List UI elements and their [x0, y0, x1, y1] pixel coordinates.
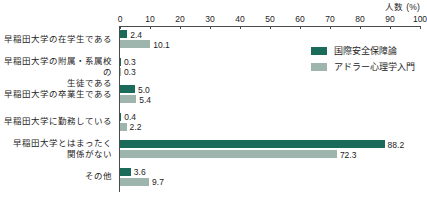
bar: [120, 58, 121, 66]
legend-swatch: [311, 63, 327, 71]
x-tick-mark: [420, 26, 421, 29]
category-label: 早稲田大学に勤務している: [0, 116, 112, 127]
x-tick-label: 50: [265, 14, 274, 24]
bar-group: 3.69.7: [120, 168, 420, 188]
category-label-line: 早稲田大学に勤務している: [0, 116, 112, 127]
x-tick-label: 30: [205, 14, 214, 24]
bar-value-label: 72.3: [340, 151, 357, 159]
bar-group: 5.05.4: [120, 85, 420, 105]
x-tick-label: 20: [175, 14, 184, 24]
x-tick-label: 60: [295, 14, 304, 24]
bar-value-label: 10.1: [153, 41, 170, 49]
x-axis-title: 人数 (%): [385, 0, 420, 12]
category-label-line: 関係がない: [0, 149, 112, 160]
legend-label: アドラー心理学入門: [334, 60, 415, 73]
category-label: 早稲田大学の在学生である: [0, 34, 112, 45]
bar-value-label: 2.2: [130, 123, 142, 131]
bar: [120, 150, 337, 158]
bar-value-label: 3.6: [134, 168, 146, 176]
bar-value-label: 0.3: [124, 58, 136, 66]
category-label: 早稲田大学の附属・系属校の生徒である: [0, 56, 112, 89]
x-tick-label: 90: [385, 14, 394, 24]
bar-value-label: 5.4: [139, 96, 151, 104]
x-tick-label: 40: [235, 14, 244, 24]
bar-value-label: 2.4: [130, 31, 142, 39]
x-tick-label: 70: [325, 14, 334, 24]
x-tick-label: 80: [355, 14, 364, 24]
category-label-line: 早稲田大学の卒業生である: [0, 89, 112, 100]
bar-group: 0.42.2: [120, 113, 420, 133]
category-label-line: 早稲田大学とはまったく: [0, 138, 112, 149]
bar: [120, 68, 121, 76]
legend-swatch: [311, 47, 327, 55]
bar: [120, 178, 149, 186]
x-tick-label: 0: [118, 14, 123, 24]
bar: [120, 140, 385, 148]
category-label-line: その他: [0, 171, 112, 182]
x-tick-label: 100: [413, 14, 427, 24]
bar-value-label: 5.0: [138, 86, 150, 94]
bar-value-label: 0.3: [124, 68, 136, 76]
legend-label: 国際安全保障論: [334, 44, 397, 57]
legend-item[interactable]: アドラー心理学入門: [311, 60, 426, 73]
bar: [120, 123, 127, 131]
bar-value-label: 0.4: [124, 113, 136, 121]
chart-legend: 国際安全保障論アドラー心理学入門: [311, 44, 426, 76]
bar: [120, 40, 150, 48]
category-label-line: 生徒である: [0, 78, 112, 89]
category-label-line: 早稲田大学の在学生である: [0, 34, 112, 45]
category-label: 早稲田大学とはまったく関係がない: [0, 138, 112, 160]
bar-value-label: 88.2: [388, 141, 405, 149]
bar-value-label: 9.7: [152, 178, 164, 186]
figure-caption: [0, 208, 426, 216]
bar: [120, 85, 135, 93]
category-label: その他: [0, 171, 112, 182]
category-label-line: 早稲田大学の附属・系属校の: [0, 56, 112, 78]
category-axis-labels: 早稲田大学の在学生である早稲田大学の附属・系属校の生徒である早稲田大学の卒業生で…: [0, 26, 116, 192]
x-tick-label: 10: [145, 14, 154, 24]
category-label: 早稲田大学の卒業生である: [0, 89, 112, 100]
bar: [120, 168, 131, 176]
legend-item[interactable]: 国際安全保障論: [311, 44, 426, 57]
bar: [120, 30, 127, 38]
bar: [120, 113, 121, 121]
bar: [120, 95, 136, 103]
bar-group: 88.272.3: [120, 140, 420, 160]
